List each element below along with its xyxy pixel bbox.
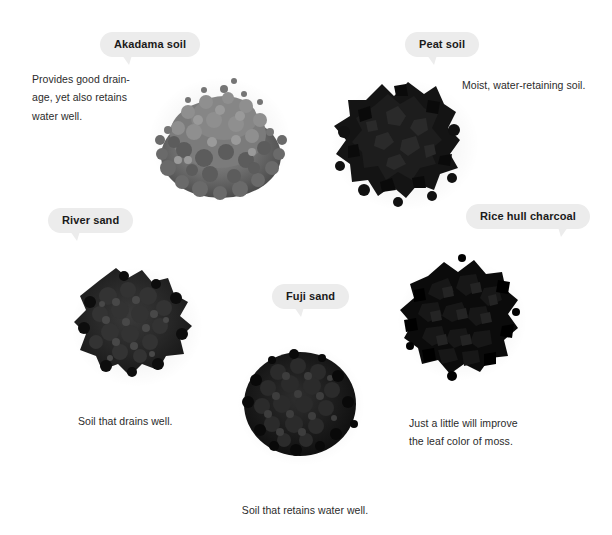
rice-hull-charcoal-pile: [392, 250, 526, 384]
label-akadama: Akadama soil: [114, 38, 186, 50]
caption-akadama: Provides good drain- age, yet also retai…: [32, 70, 172, 125]
peat-soil-pile: [328, 70, 468, 210]
bubble-rice-hull-charcoal[interactable]: Rice hull charcoal: [466, 204, 590, 229]
label-peat: Peat soil: [419, 38, 465, 50]
caption-peat: Moist, water-retaining soil.: [462, 76, 612, 94]
label-river-sand: River sand: [62, 214, 119, 226]
caption-rice-hull-charcoal: Just a little will improve the leaf colo…: [409, 414, 599, 451]
river-sand-pile: [66, 258, 202, 388]
bubble-river-sand[interactable]: River sand: [48, 208, 133, 233]
bubble-peat[interactable]: Peat soil: [405, 32, 479, 57]
fuji-sand-pile: [234, 338, 366, 466]
label-fuji-sand: Fuji sand: [286, 290, 335, 302]
bubble-fuji-sand[interactable]: Fuji sand: [272, 284, 349, 309]
label-rice-hull-charcoal: Rice hull charcoal: [480, 210, 576, 222]
soil-types-diagram: Akadama soil Provides good drain- age, y…: [0, 0, 612, 535]
bubble-akadama[interactable]: Akadama soil: [100, 32, 200, 57]
caption-fuji-sand: Soil that retains water well.: [200, 501, 410, 519]
caption-river-sand: Soil that drains well.: [78, 412, 278, 430]
